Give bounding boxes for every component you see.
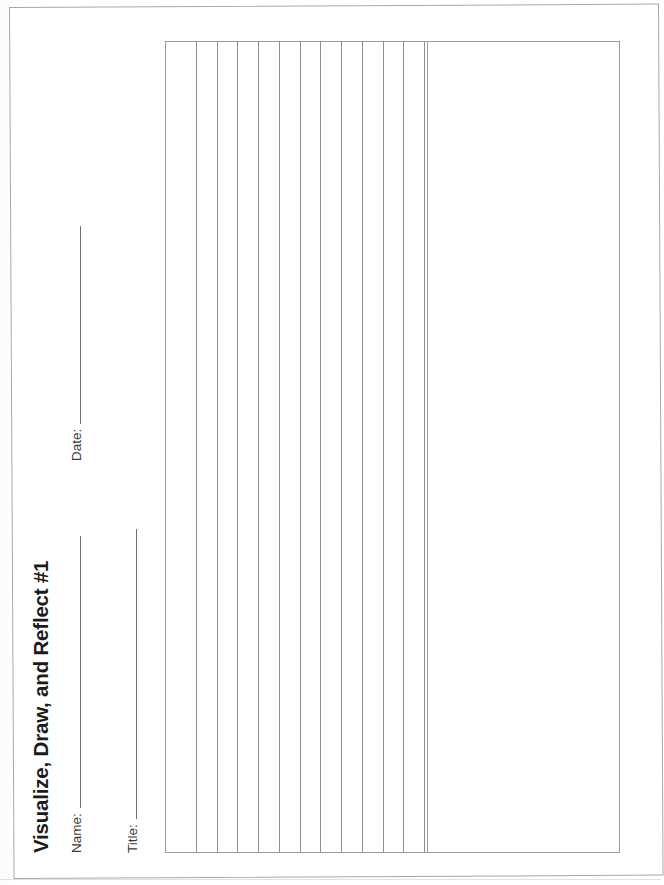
field-row-name-date: Name: Date: (67, 33, 93, 853)
writing-rule-line (196, 42, 197, 852)
date-field[interactable]: Date: (67, 226, 84, 461)
writing-rule-line (383, 42, 384, 852)
writing-rule-line (424, 42, 425, 852)
writing-rule-line (341, 42, 342, 852)
worksheet-content: Visualize, Draw, and Reflect #1 Name: Da… (21, 33, 641, 853)
field-row-title: Title: (123, 33, 149, 853)
writing-rule-line (237, 42, 238, 852)
drawing-area[interactable] (428, 42, 619, 852)
title-field-write-line[interactable] (123, 529, 137, 819)
writing-rule-line (258, 42, 259, 852)
title-field[interactable]: Title: (123, 529, 140, 853)
writing-rule-line (362, 42, 363, 852)
name-field-write-line[interactable] (67, 536, 81, 808)
footer-divider (0, 879, 661, 880)
name-field[interactable]: Name: (67, 536, 84, 853)
writing-rule-line (217, 42, 218, 852)
writing-rule-line (403, 42, 404, 852)
date-field-label: Date: (69, 429, 84, 461)
name-field-label: Name: (69, 813, 84, 853)
writing-rule-line (320, 42, 321, 852)
writing-rule-line (300, 42, 301, 852)
title-field-label: Title: (125, 824, 140, 853)
date-field-write-line[interactable] (67, 226, 81, 424)
page-title: Visualize, Draw, and Reflect #1 (29, 561, 53, 853)
writing-rule-line (279, 42, 280, 852)
worksheet-boxes (165, 41, 620, 853)
writing-area[interactable] (166, 42, 428, 852)
